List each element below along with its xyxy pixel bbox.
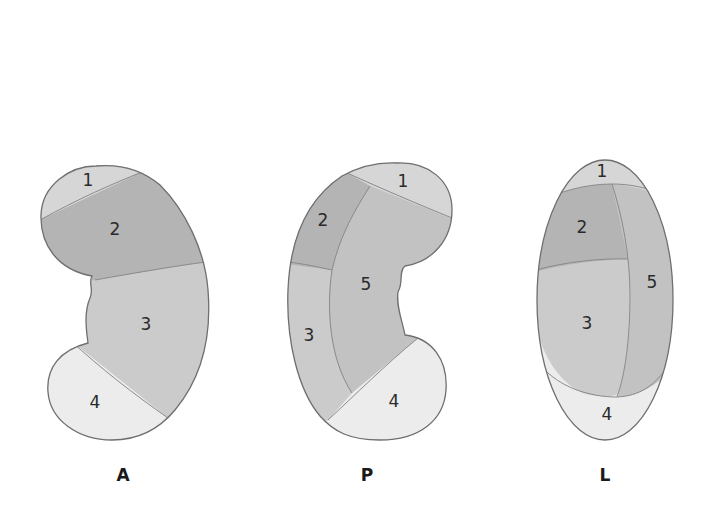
segment-label-1: 1 <box>597 161 608 181</box>
segment-label-5: 5 <box>647 272 658 292</box>
kidney-view-lateral: 1 2 5 3 4 L <box>520 150 680 485</box>
segment-label-2: 2 <box>318 210 329 230</box>
view-label-anterior: A <box>116 465 130 485</box>
segment-label-4: 4 <box>602 404 613 424</box>
view-label-posterior: P <box>361 465 373 485</box>
segment-label-3: 3 <box>304 325 315 345</box>
segment-label-2: 2 <box>110 219 121 239</box>
segment-label-1: 1 <box>83 170 94 190</box>
segment-label-5: 5 <box>361 274 372 294</box>
segment-label-4: 4 <box>389 391 400 411</box>
segment-label-4: 4 <box>90 392 101 412</box>
view-label-lateral: L <box>600 465 611 485</box>
segment-label-3: 3 <box>141 314 152 334</box>
segment-label-2: 2 <box>577 217 588 237</box>
segment-label-1: 1 <box>398 171 409 191</box>
segment-label-3: 3 <box>582 313 593 333</box>
kidney-segments-diagram: 1 2 3 4 A 1 2 5 3 4 P <box>0 0 702 510</box>
